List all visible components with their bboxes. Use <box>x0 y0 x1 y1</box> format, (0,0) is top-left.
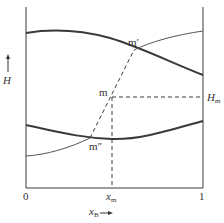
y-axis-label: H <box>3 75 11 86</box>
x-tick-0: 0 <box>23 191 29 202</box>
hm-label: Hm <box>207 92 220 105</box>
h-arrowhead-icon <box>6 54 10 59</box>
xm-label: xm <box>106 191 116 204</box>
lower-thick-curve <box>26 121 203 139</box>
x-tick-1: 1 <box>199 191 205 202</box>
x-axis-label: xB <box>89 206 99 219</box>
point-m-label: m <box>99 87 108 98</box>
xm-label-sub: m <box>111 196 116 204</box>
hm-label-sub: m <box>215 97 220 105</box>
point-m-double-prime-label: m″ <box>89 141 102 152</box>
xb-arrowhead-icon <box>108 211 113 215</box>
point-m-prime-label: m′ <box>128 37 139 48</box>
enthalpy-composition-diagram <box>0 0 224 223</box>
hm-label-main: H <box>207 91 215 103</box>
upper-thick-curve <box>26 31 203 75</box>
xb-label-sub: B <box>94 211 99 219</box>
lower-thin-curve <box>26 138 90 156</box>
tie-line <box>90 50 134 138</box>
upper-thin-curve <box>134 31 203 50</box>
